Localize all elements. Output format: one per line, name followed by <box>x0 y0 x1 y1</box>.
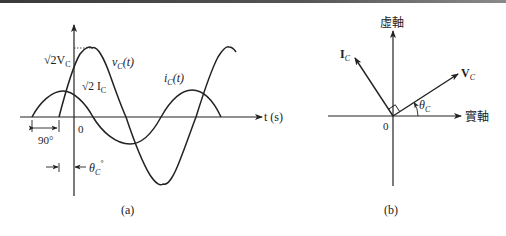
voltage-curve <box>59 47 236 185</box>
origin-label-b: 0 <box>383 120 389 132</box>
caption-b: (b) <box>384 203 398 217</box>
time-axis-label: t (s) <box>264 110 283 124</box>
origin-label-a: 0 <box>78 123 84 135</box>
voltage-curve-label: vC(t) <box>112 55 134 71</box>
panel-a-waveforms: √2VC √2 IC vC(t) iC(t) 0 t (s) 90° θC° (… <box>20 25 283 217</box>
figure: √2VC √2 IC vC(t) iC(t) 0 t (s) 90° θC° (… <box>0 0 506 236</box>
imag-axis-label: 虛軸 <box>380 16 404 30</box>
current-phasor <box>355 58 393 116</box>
caption-a: (a) <box>121 203 134 217</box>
current-curve-label: iC(t) <box>164 71 184 87</box>
voltage-peak-label: √2VC <box>44 53 71 69</box>
theta-label-a: θC° <box>89 159 104 177</box>
theta-arc <box>414 103 418 117</box>
theta-label-b: θC <box>419 98 431 114</box>
real-axis-label: 實軸 <box>465 109 489 124</box>
ninety-degree-label: 90° <box>38 134 53 146</box>
current-peak-label: √2 IC <box>82 80 106 95</box>
current-phasor-label: IC <box>340 47 351 63</box>
voltage-phasor-label: VC <box>461 66 476 82</box>
panel-b-phasor: 虛軸 實軸 0 IC VC θC (b) <box>328 16 489 217</box>
